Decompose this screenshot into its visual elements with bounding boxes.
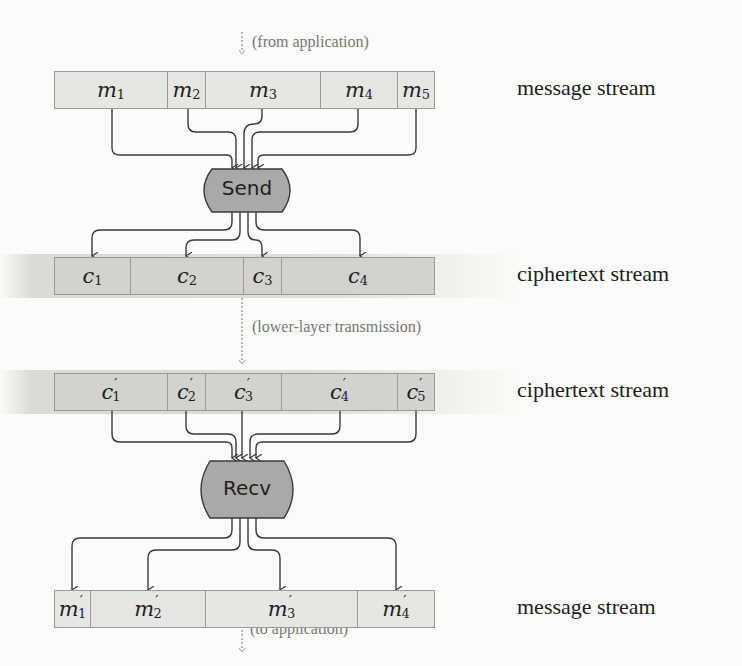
message-stream-label-2: message stream (517, 594, 656, 620)
ciphertext-block: c′2 (168, 374, 206, 410)
message-block: m′3 (206, 591, 358, 627)
message-block: m′2 (91, 591, 206, 627)
input-message-stream: m1 m2 m3 m4 m5 (54, 71, 435, 109)
message-block: m1 (55, 72, 168, 108)
ciphertext-stream-label-2: ciphertext stream (517, 377, 669, 403)
recv-label: Recv (206, 476, 288, 500)
sent-ciphertext-stream: c1 c2 c3 c4 (54, 257, 435, 295)
ciphertext-block: c′3 (206, 374, 282, 410)
from-application-note: (from application) (252, 33, 369, 51)
ciphertext-block: c′1 (55, 374, 168, 410)
message-block: m3 (206, 72, 321, 108)
ciphertext-block: c′4 (282, 374, 398, 410)
message-block: m4 (321, 72, 398, 108)
ciphertext-block: c2 (131, 258, 244, 294)
send-label: Send (206, 176, 288, 200)
output-message-stream: m′1 m′2 m′3 m′4 (54, 590, 435, 628)
lower-layer-note: (lower-layer transmission) (252, 318, 421, 336)
message-stream-label: message stream (517, 75, 656, 101)
message-block: m2 (168, 72, 206, 108)
message-block: m5 (398, 72, 434, 108)
ciphertext-block: c′5 (398, 374, 434, 410)
message-block: m′4 (358, 591, 434, 627)
ciphertext-block: c3 (244, 258, 282, 294)
ciphertext-block: c1 (55, 258, 131, 294)
ciphertext-block: c4 (282, 258, 434, 294)
received-ciphertext-stream: c′1 c′2 c′3 c′4 c′5 (54, 373, 435, 411)
message-block: m′1 (55, 591, 91, 627)
ciphertext-stream-label: ciphertext stream (517, 261, 669, 287)
